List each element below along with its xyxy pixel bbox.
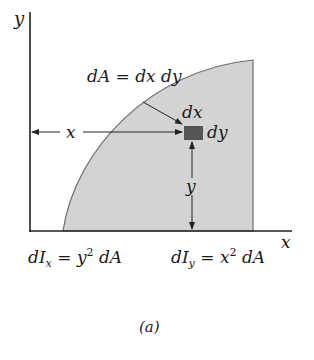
x-distance-label: x [66, 124, 76, 141]
dA-equation-label: dA = dx dy [87, 68, 182, 85]
diagram-canvas [0, 0, 314, 360]
x-axis-label: x [281, 234, 291, 251]
figure-caption: (a) [139, 320, 160, 335]
dx-label: dx [182, 104, 202, 121]
formula-dIy: dIy = x2 dA [171, 247, 265, 269]
area-element-dA [184, 126, 203, 140]
formula-dIx: dIx = y2 dA [28, 247, 122, 269]
y-axis-label: y [14, 10, 24, 28]
y-distance-label: y [186, 178, 196, 195]
dy-label: dy [207, 124, 228, 141]
